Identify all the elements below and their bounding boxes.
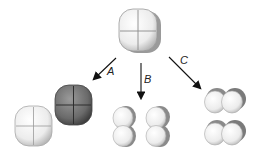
outcome-b-pair-left [113,106,136,147]
diagram-canvas [0,0,258,158]
label-c: C [180,54,188,66]
label-a: A [107,65,114,77]
parent-embryo [119,9,161,53]
outcome-a-dark-embryo [55,85,92,125]
outcome-b-pair-right [146,106,170,147]
outcome-c-pair-bottom [205,120,247,145]
outcome-c-pair-top [205,88,247,113]
outcome-a-light-embryo [15,106,52,146]
label-b: B [144,73,151,85]
